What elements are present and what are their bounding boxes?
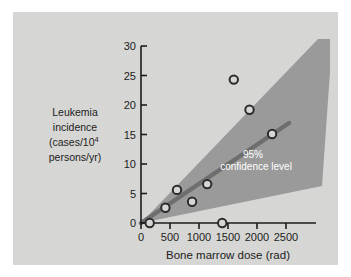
y-tick-label-20: 20 <box>124 99 136 111</box>
band-label-description: confidence level <box>220 161 292 172</box>
y-axis-title-line-4: persons/yr) <box>49 151 102 163</box>
y-axis-title-line-3: (cases/104 <box>49 135 99 148</box>
confidence-band-shape <box>141 39 330 223</box>
x-tick-label-2000: 2000 <box>245 231 269 243</box>
y-axis-title-line-1: Leukemia <box>52 106 98 118</box>
data-point <box>146 219 154 227</box>
y-axis: 30 25 20 15 10 5 0 <box>124 40 147 229</box>
confidence-band-group <box>141 39 330 223</box>
x-tick-label-500: 500 <box>161 231 179 243</box>
chart-plot-area: 95% confidence level 30 25 20 15 10 5 0 <box>0 0 351 277</box>
data-point <box>188 198 196 206</box>
x-axis-title: Bone marrow dose (rad) <box>166 249 290 261</box>
data-point <box>161 204 169 212</box>
y-tick-label-10: 10 <box>124 158 136 170</box>
data-point <box>203 180 211 188</box>
x-tick-label-1500: 1500 <box>216 231 240 243</box>
data-point <box>230 75 238 83</box>
data-point <box>218 219 226 227</box>
y-tick-label-25: 25 <box>124 70 136 82</box>
y-axis-title-exponent: 4 <box>95 135 99 144</box>
x-tick-label-0: 0 <box>138 231 144 243</box>
y-tick-label-5: 5 <box>130 188 136 200</box>
band-label-percent: 95% <box>243 149 263 160</box>
y-axis-title-cases-prefix: (cases/10 <box>49 136 95 148</box>
x-tick-label-2500: 2500 <box>274 231 298 243</box>
x-tick-label-1000: 1000 <box>187 231 211 243</box>
y-axis-title: Leukemia incidence (cases/104 persons/yr… <box>49 106 102 163</box>
y-tick-label-30: 30 <box>124 40 136 52</box>
data-point <box>268 130 276 138</box>
y-tick-label-15: 15 <box>124 129 136 141</box>
y-axis-title-line-2: incidence <box>53 121 98 133</box>
data-point <box>173 186 181 194</box>
x-axis: 0 500 1000 1500 2000 2500 <box>138 223 316 243</box>
data-point <box>245 106 253 114</box>
figure-container: 95% confidence level 30 25 20 15 10 5 0 <box>0 0 351 277</box>
y-tick-label-0: 0 <box>130 217 136 229</box>
